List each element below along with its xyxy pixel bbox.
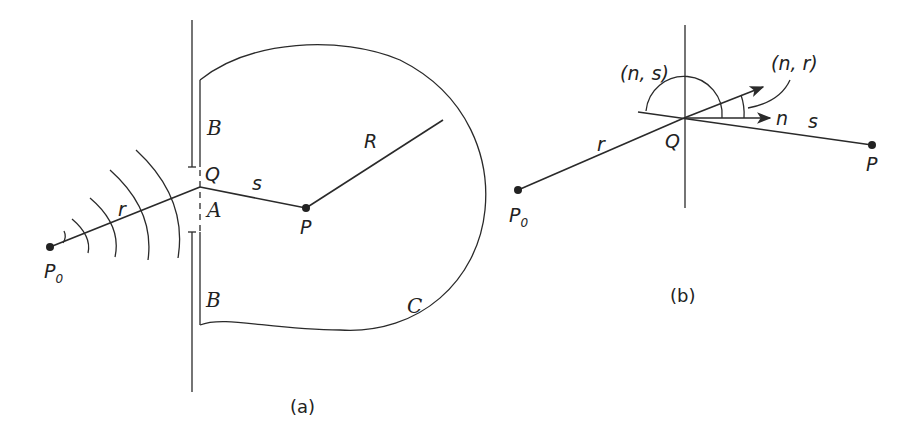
panel-b: P0 r Q P n s (n, s) (n, r) (b) <box>509 25 878 306</box>
diffraction-diagram: P0 r Q s P R B A B C (a) P0 r Q P n s <box>0 0 905 438</box>
label-r: r <box>118 198 127 220</box>
label-n: n <box>776 107 788 129</box>
point-p-dot <box>302 204 310 212</box>
label-b-upper: B <box>206 116 222 140</box>
surface-c-arc <box>200 45 486 331</box>
r-direction-arrow <box>684 87 763 118</box>
label-angle-ns: (n, s) <box>620 62 669 84</box>
caption-b: (b) <box>670 285 695 306</box>
wavefront-3 <box>90 198 116 257</box>
label-q: Q <box>205 163 220 185</box>
label-angle-nr: (n, r) <box>771 52 818 74</box>
label-c: C <box>407 294 422 318</box>
point-p0-dot <box>46 243 54 251</box>
label-q-b: Q <box>665 130 680 152</box>
angle-nr-leader <box>748 80 790 108</box>
label-p0-b: P0 <box>509 204 528 230</box>
label-a: A <box>205 198 221 222</box>
point-p0-b-dot <box>514 186 522 194</box>
point-p-b-dot <box>868 141 876 149</box>
label-s-b: s <box>808 110 818 132</box>
panel-a: P0 r Q s P R B A B C (a) <box>44 20 486 417</box>
wavefront-2 <box>72 219 89 253</box>
label-r-b: r <box>597 133 606 155</box>
label-b-lower: B <box>205 288 221 312</box>
label-p: P <box>300 216 312 238</box>
label-p-b: P <box>866 153 878 175</box>
angle-nr-arc <box>741 95 744 118</box>
label-p0: P0 <box>44 260 63 286</box>
label-s: s <box>252 172 262 194</box>
caption-a: (a) <box>290 396 315 417</box>
label-radius: R <box>364 130 377 152</box>
